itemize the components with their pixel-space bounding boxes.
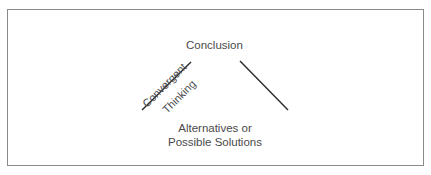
- right-line: [240, 61, 288, 110]
- diagram-lines: [0, 0, 431, 175]
- possible-solutions-label: Possible Solutions: [150, 136, 280, 148]
- alternatives-label: Alternatives or: [150, 122, 280, 134]
- conclusion-label: Conclusion: [186, 39, 243, 51]
